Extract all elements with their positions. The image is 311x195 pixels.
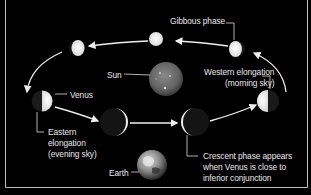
label-crescent-line2: when Venus is close to <box>203 161 286 172</box>
earth <box>137 150 167 180</box>
venus-western-elongation <box>257 90 279 112</box>
venus-crescent-left <box>100 108 128 136</box>
label-crescent-line1: Crescent phase appears <box>203 150 292 161</box>
venus-top-center <box>149 32 163 46</box>
venus-top-right-gibbous <box>229 41 245 57</box>
sun <box>149 62 183 96</box>
venus-top-left-gibbous <box>69 40 85 56</box>
venus-phases-diagram: Gibbous phase Sun Venus Western elongati… <box>0 0 311 195</box>
label-elongation: elongation <box>48 137 86 148</box>
label-venus: Venus <box>70 89 93 100</box>
label-western-morning-sky: (morning sky) <box>225 77 275 88</box>
eastern-leader-line <box>37 112 44 132</box>
label-eastern: Eastern <box>48 126 76 137</box>
label-crescent-line3: inferior conjunction <box>203 172 271 183</box>
label-earth: Earth <box>109 167 129 178</box>
gibbous-leader-line <box>226 23 234 40</box>
venus-crescent-right <box>181 108 209 136</box>
label-western-elongation: Western elongation <box>204 66 274 77</box>
label-evening-sky: (evening sky) <box>48 148 97 159</box>
label-gibbous-phase: Gibbous phase <box>170 15 225 26</box>
sun-leader-line <box>124 74 150 75</box>
crescent-leader-line <box>187 135 198 156</box>
label-sun: Sun <box>107 69 122 80</box>
venus-eastern-elongation <box>32 91 53 112</box>
